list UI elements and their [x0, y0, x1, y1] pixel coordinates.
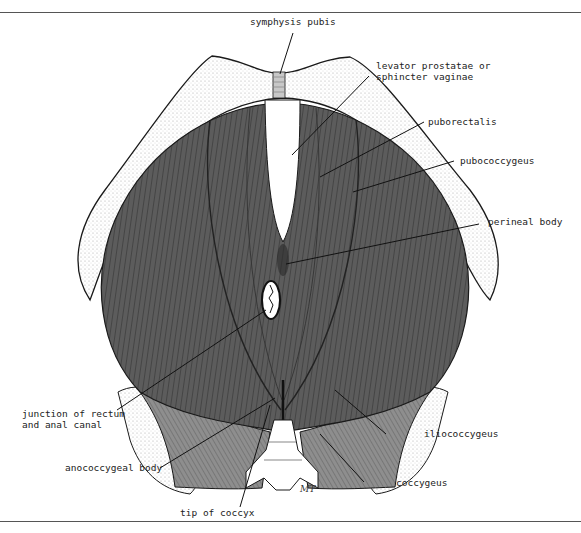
artist-signature: MT — [299, 484, 316, 494]
label-anococcygeal-body: anococcygeal body — [65, 462, 162, 473]
label-symphysis-pubis: symphysis pubis — [250, 16, 336, 27]
label-perineal-body: perineal body — [488, 216, 562, 227]
label-pubococcygeus: pubococcygeus — [460, 155, 534, 166]
label-coccygeus: coccygeus — [396, 477, 447, 488]
label-iliococcygeus: iliococcygeus — [424, 428, 498, 439]
label-junction-rectum: junction of rectum and anal canal — [22, 408, 125, 430]
symphysis-pubis — [273, 72, 285, 98]
label-puborectalis: puborectalis — [428, 116, 497, 127]
label-levator-prostatae: levator prostatae or sphincter vaginae — [376, 60, 490, 82]
pelvic-floor-illustration: MT — [0, 0, 581, 533]
label-tip-of-coccyx: tip of coccyx — [180, 507, 254, 518]
